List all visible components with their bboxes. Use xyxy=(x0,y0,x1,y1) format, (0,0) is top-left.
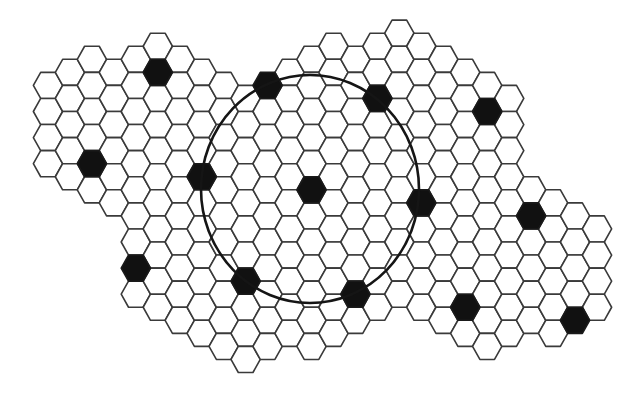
hex-grid-diagram xyxy=(0,0,641,396)
hex-cell-filled xyxy=(341,281,370,307)
hex-cell-filled xyxy=(473,98,502,124)
hex-cell xyxy=(582,242,611,268)
hex-cell-filled xyxy=(143,59,172,85)
hex-cell-filled xyxy=(407,190,436,216)
hex-cell xyxy=(582,216,611,242)
hex-cell-filled xyxy=(560,307,589,333)
hex-cell-filled xyxy=(297,177,326,203)
hex-cell-filled xyxy=(121,255,150,281)
hex-cell-filled xyxy=(253,72,282,98)
hex-cell xyxy=(582,268,611,294)
hex-cell-filled xyxy=(516,203,545,229)
hex-cell-filled xyxy=(77,151,106,177)
hex-cell-filled xyxy=(451,294,480,320)
hex-cell xyxy=(495,138,524,164)
